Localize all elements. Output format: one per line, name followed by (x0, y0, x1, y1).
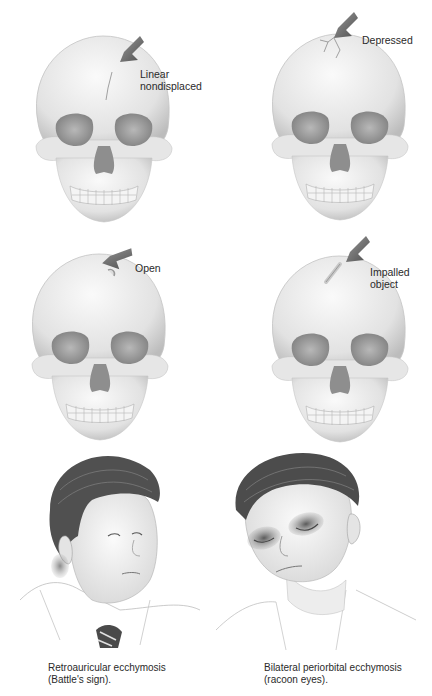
skull-depressed-illustration (216, 0, 432, 210)
label-impalled: Impalled object (370, 266, 410, 290)
face-racoon-eyes-illustration (216, 440, 432, 650)
label-linear: Linear nondisplaced (140, 68, 202, 92)
caption-battle-sign: Retroauricular ecchymosis (Battle's sign… (48, 662, 166, 685)
skull-open-panel: Open (0, 220, 216, 440)
label-depressed: Depressed (362, 34, 413, 46)
arrow-icon (346, 236, 370, 262)
skull-impalled-panel: Impalled object (216, 220, 432, 440)
arrow-icon (334, 12, 358, 38)
skull-linear-illustration (0, 0, 216, 210)
face-battle-sign-illustration (0, 440, 216, 650)
skull-impalled-illustration (216, 220, 432, 440)
caption-racoon-eyes: Bilateral periorbital ecchymosis (racoon… (264, 662, 402, 685)
skull-open-illustration (0, 220, 216, 440)
label-open: Open (135, 262, 161, 274)
skull-depressed-panel: Depressed (216, 0, 432, 210)
face-battle-sign-panel: Retroauricular ecchymosis (Battle's sign… (0, 440, 216, 696)
face-racoon-eyes-panel: Bilateral periorbital ecchymosis (racoon… (216, 440, 432, 696)
skull-linear-panel: Linear nondisplaced (0, 0, 216, 210)
